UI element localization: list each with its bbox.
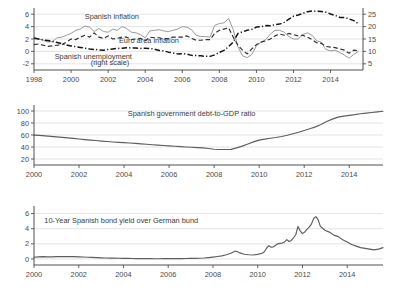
chart-annotation: Spanish government debt-to-GDP ratio — [128, 109, 256, 118]
annotations-top: Spanish inflationEuro area inflationSpan… — [55, 12, 179, 67]
y2-tick-label: 5 — [368, 59, 372, 68]
panel-inflation-unemployment: -202465101520251998200020022004200620082… — [0, 0, 397, 95]
x-tick-label: 2006 — [174, 75, 190, 84]
y-tick-label: -2 — [22, 59, 29, 68]
y-tick-label: 4 — [25, 22, 29, 31]
x-tick-label: 2008 — [205, 270, 221, 279]
x-tick-label: 2004 — [115, 270, 131, 279]
annotations-bot: 10-Year Spanish bond yield over German b… — [44, 216, 198, 225]
y2-tick-label: 25 — [368, 10, 376, 19]
figure-three-panel-spain-charts: -202465101520251998200020022004200620082… — [0, 0, 397, 293]
x-tick-label: 2010 — [248, 75, 264, 84]
x-tick-label: 2006 — [160, 270, 176, 279]
x-tick-label: 2000 — [63, 75, 79, 84]
chart-annotation: (right scale) — [91, 58, 130, 67]
chart-annotation: 10-Year Spanish bond yield over German b… — [44, 216, 198, 225]
x-tick-label: 2010 — [251, 170, 267, 179]
x-tick-label: 2002 — [71, 170, 87, 179]
y-tick-label: 2 — [25, 239, 29, 248]
x-tick-label: 2012 — [285, 75, 301, 84]
x-tick-label: 2012 — [296, 170, 312, 179]
y-tick-label: 4 — [25, 224, 29, 233]
y-tick-label: 40 — [21, 143, 29, 152]
panel-bond-spread: 024620002002200420062008201020122014 10-… — [0, 192, 397, 293]
y-tick-label: 80 — [21, 119, 29, 128]
x-tick-label: 1998 — [26, 75, 42, 84]
gridlines-mid — [34, 111, 383, 159]
tick-labels-top: -202465101520251998200020022004200620082… — [22, 10, 376, 84]
chart-annotation: Spanish inflation — [85, 12, 139, 21]
y-tick-label: 20 — [21, 155, 29, 164]
x-tick-label: 2000 — [26, 270, 42, 279]
x-tick-label: 2008 — [206, 170, 222, 179]
y2-tick-label: 15 — [368, 35, 376, 44]
annotations-mid: Spanish government debt-to-GDP ratio — [128, 109, 256, 118]
y-tick-label: 0 — [25, 47, 29, 56]
panel-top-svg: -202465101520251998200020022004200620082… — [0, 0, 397, 95]
panel-bot-svg: 024620002002200420062008201020122014 10-… — [0, 192, 397, 293]
x-tick-label: 2006 — [161, 170, 177, 179]
x-tick-label: 2010 — [249, 270, 265, 279]
y-tick-label: 60 — [21, 131, 29, 140]
y-tick-label: 100 — [17, 107, 29, 116]
x-tick-label: 2004 — [116, 170, 132, 179]
y2-tick-label: 20 — [368, 22, 376, 31]
x-tick-label: 2012 — [294, 270, 310, 279]
y-tick-label: 6 — [25, 10, 29, 19]
y-tick-label: 2 — [25, 35, 29, 44]
x-tick-label: 2014 — [322, 75, 338, 84]
y-tick-label: 0 — [25, 255, 29, 264]
chart-annotation: Euro area inflation — [119, 36, 179, 45]
x-tick-label: 2000 — [26, 170, 42, 179]
x-tick-label: 2008 — [211, 75, 227, 84]
panel-mid-svg: 2040608010020002002200420062008201020122… — [0, 95, 397, 192]
y-tick-label: 6 — [25, 209, 29, 218]
series-line-1 — [34, 28, 358, 54]
panel-debt-to-gdp: 2040608010020002002200420062008201020122… — [0, 95, 397, 192]
x-tick-label: 2004 — [137, 75, 153, 84]
x-tick-label: 2014 — [339, 270, 355, 279]
x-tick-label: 2002 — [100, 75, 116, 84]
x-tick-label: 2002 — [71, 270, 87, 279]
y2-tick-label: 10 — [368, 47, 376, 56]
x-tick-label: 2014 — [341, 170, 357, 179]
